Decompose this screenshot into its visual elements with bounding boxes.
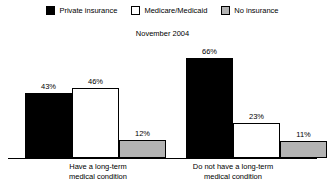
- bar-no-insurance: [119, 140, 166, 158]
- bar-value-label: 23%: [233, 112, 280, 121]
- legend-swatch-icon: [221, 6, 230, 15]
- bar-value-label: 46%: [72, 77, 119, 86]
- bar-value-label: 11%: [280, 130, 327, 139]
- bar-value-label: 12%: [119, 129, 166, 138]
- bar-medicare-medicaid: [72, 88, 119, 158]
- legend-item-medicare-medicaid: Medicare/Medicaid: [131, 6, 207, 15]
- legend-swatch-icon: [46, 6, 55, 15]
- legend-label: Medicare/Medicaid: [144, 6, 207, 15]
- bar-medicare-medicaid: [233, 123, 280, 158]
- legend-item-no-insurance: No insurance: [221, 6, 278, 15]
- bar-value-label: 66%: [186, 47, 233, 56]
- legend-swatch-icon: [131, 6, 140, 15]
- chart-subtitle: November 2004: [0, 29, 325, 38]
- chart-legend: Private insurance Medicare/Medicaid No i…: [0, 6, 325, 15]
- bar-private-insurance: [186, 58, 233, 158]
- category-label-no-condition: Do not have a long-termmedical condition: [148, 162, 318, 181]
- category-axis-labels: Have a long-termmedical condition Do not…: [0, 162, 325, 188]
- bar-no-insurance: [280, 141, 327, 158]
- legend-label: Private insurance: [59, 6, 117, 15]
- x-axis-baseline: [8, 158, 317, 159]
- legend-label: No insurance: [234, 6, 278, 15]
- plot-area: 43% 46% 12% 66% 23% 11%: [0, 40, 325, 159]
- legend-item-private-insurance: Private insurance: [46, 6, 117, 15]
- bar-value-label: 43%: [25, 82, 72, 91]
- bar-private-insurance: [25, 93, 72, 158]
